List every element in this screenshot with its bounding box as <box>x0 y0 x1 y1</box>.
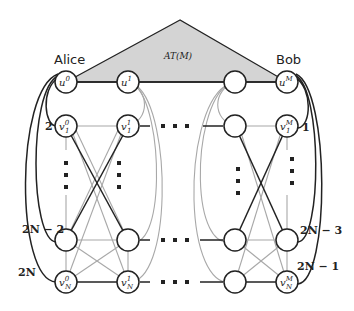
diagram-canvas: AT(M) <box>0 0 354 311</box>
edge-label-left-1: 2 <box>45 120 53 133</box>
node-vN1-1 <box>117 229 139 251</box>
edge-label-left-2: 2N − 2 <box>22 223 64 236</box>
node-vN1-M <box>276 229 298 251</box>
alice-label: Alice <box>54 52 85 67</box>
bob-label: Bob <box>276 52 301 67</box>
node-v1-mid <box>224 115 246 137</box>
dark-edges <box>25 74 321 284</box>
tree-label: AT(M) <box>163 51 193 61</box>
light-edges <box>66 82 287 283</box>
label-vN-0-sub: N <box>64 283 72 291</box>
edge-label-left-3: 2N <box>18 266 36 279</box>
node-u-mid <box>224 71 246 93</box>
edge-label-right-3: 2N − 1 <box>297 260 339 273</box>
label-v1-1-sub: 1 <box>127 127 131 135</box>
label-vN-1-sub: N <box>126 283 134 291</box>
node-vN1-mid <box>224 229 246 251</box>
edge-label-right-2: 2N − 3 <box>300 224 342 237</box>
edge-label-right-1: 1 <box>302 121 310 134</box>
label-v1-M-sub: 1 <box>286 127 290 135</box>
node-vN-mid <box>224 271 246 293</box>
label-vN-M-sub: N <box>285 283 293 291</box>
label-v1-0-sub: 1 <box>65 127 69 135</box>
